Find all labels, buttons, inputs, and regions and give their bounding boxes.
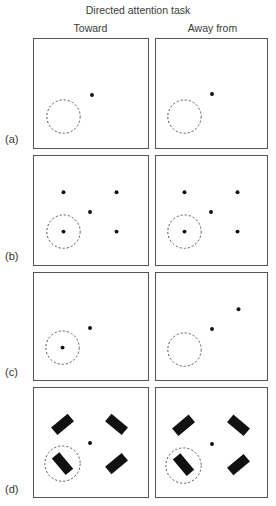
oriented-bar <box>173 453 194 476</box>
stimulus-dot <box>115 190 119 194</box>
attention-circle <box>168 333 201 366</box>
fixation-dot <box>88 441 92 445</box>
oriented-bar <box>51 414 74 435</box>
row-label-c: (c) <box>5 366 18 378</box>
target-dot <box>61 346 65 350</box>
panel-c-away-from <box>155 272 268 381</box>
stimulus-dot <box>62 230 66 234</box>
oriented-bar <box>52 452 73 475</box>
row-label-b: (b) <box>5 250 18 262</box>
column-header-away-from: Away from <box>155 22 270 34</box>
fixation-dot <box>210 442 214 446</box>
oriented-bar <box>105 453 128 474</box>
panel-b-away-from <box>155 155 268 266</box>
fixation-dot <box>88 210 92 214</box>
panel-d-away-from <box>155 387 268 498</box>
stimulus-dot <box>183 230 187 234</box>
figure-title: Directed attention task <box>0 4 276 16</box>
panel-b-toward <box>33 155 149 266</box>
panel-a-away-from <box>155 38 268 149</box>
stimulus-dot <box>236 230 240 234</box>
attention-circle <box>168 100 201 133</box>
fixation-dot <box>210 327 214 331</box>
fixation-dot <box>209 210 213 214</box>
stimulus-dot <box>115 230 119 234</box>
attention-circle <box>47 100 80 133</box>
target-dot <box>237 307 241 311</box>
column-header-toward: Toward <box>33 22 148 34</box>
fixation-dot <box>90 93 94 97</box>
oriented-bar <box>227 415 250 436</box>
panel-d-toward <box>33 387 149 498</box>
panel-a-toward <box>33 38 149 149</box>
stimulus-dot <box>236 190 240 194</box>
fixation-dot <box>88 326 92 330</box>
row-label-a: (a) <box>5 133 18 145</box>
row-label-d: (d) <box>5 483 18 495</box>
oriented-bar <box>172 415 195 436</box>
oriented-bar <box>227 454 250 475</box>
stimulus-dot <box>183 190 187 194</box>
fixation-dot <box>210 92 214 96</box>
stimulus-dot <box>62 190 66 194</box>
oriented-bar <box>105 414 128 435</box>
panel-c-toward <box>33 272 149 381</box>
